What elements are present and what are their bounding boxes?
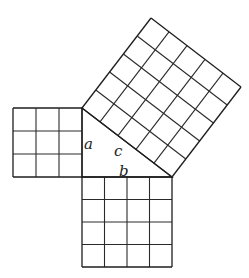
label-a: a [84,135,93,153]
grid-line [118,46,187,136]
grid-line [154,73,223,163]
grid-line [123,54,213,123]
pythagorean-diagram: a c b [0,0,249,278]
grid-line [136,59,205,149]
grid-line [110,72,200,141]
grid-line [137,36,227,105]
label-b: b [119,162,129,180]
square-b-grid [82,177,172,267]
square-a-grid [13,108,82,177]
grid-line [96,90,186,159]
square-c-grid [82,18,241,177]
grid-line [82,18,151,108]
grid-line [172,87,241,177]
label-c: c [114,142,123,160]
grid-line [100,32,169,122]
grid-line [151,18,241,87]
